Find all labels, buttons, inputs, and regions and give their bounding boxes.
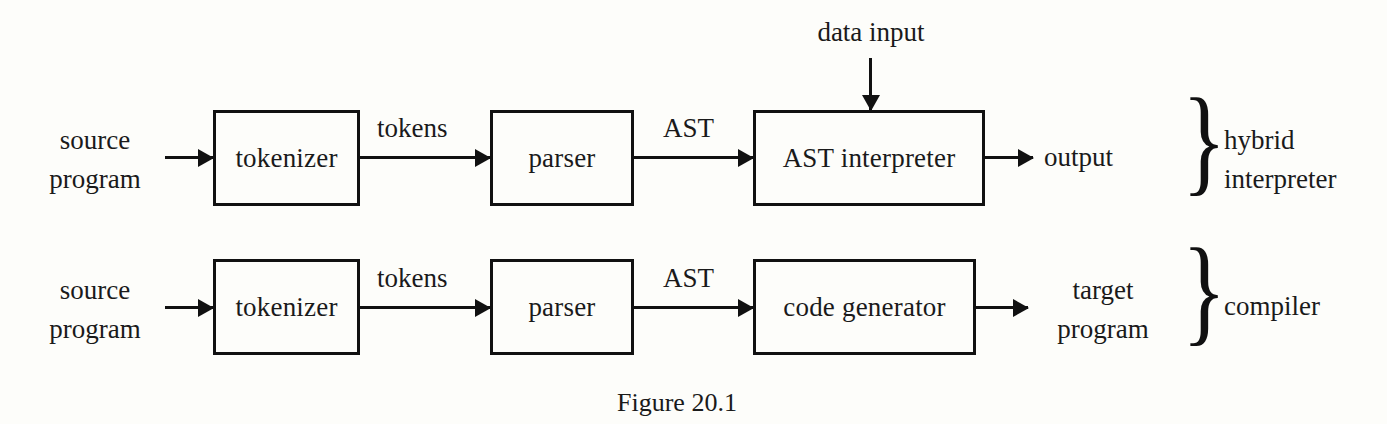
row2-stage-parser-label: parser — [528, 294, 595, 321]
row2-stage-parser[interactable]: parser — [490, 259, 634, 355]
row2-stage-code-generator-label: code generator — [783, 294, 945, 321]
row2-group-label: compiler — [1224, 290, 1320, 322]
row2-arrow-tokenizer-to-parser — [360, 306, 490, 309]
row1-group-label-line2: interpreter — [1224, 160, 1336, 199]
row1-side-input-label: data input — [790, 16, 952, 48]
row1-group-brace: } — [1182, 82, 1226, 200]
row1-input-label-line1: source — [30, 121, 160, 160]
row1-output-label: output — [1044, 141, 1113, 173]
row1-stage-ast-interpreter[interactable]: AST interpreter — [753, 110, 985, 206]
row1-arrow-interpreter-to-output — [985, 156, 1033, 159]
row2-output-label: target program — [1040, 271, 1166, 349]
figure-caption: Figure 20.1 — [617, 388, 737, 418]
row1-group-label: hybrid interpreter — [1224, 121, 1336, 199]
row2-arrow-codegen-to-output — [976, 306, 1028, 309]
row1-stage-tokenizer[interactable]: tokenizer — [213, 110, 360, 206]
row2-stage-tokenizer[interactable]: tokenizer — [213, 259, 360, 355]
row1-input-label: source program — [30, 121, 160, 199]
row1-arrow-tokenizer-to-parser — [360, 156, 490, 159]
row2-arrow-parser-to-codegen — [634, 306, 753, 309]
row2-edge-label-tokens: tokens — [377, 262, 448, 294]
row2-group-brace: } — [1182, 232, 1226, 350]
row2-edge-label-ast: AST — [663, 262, 714, 294]
row2-stage-tokenizer-label: tokenizer — [235, 294, 337, 321]
row1-arrow-data-input — [869, 58, 872, 110]
row1-arrow-parser-to-interpreter — [634, 156, 753, 159]
row2-input-label-line2: program — [30, 310, 160, 349]
row1-input-label-line2: program — [30, 160, 160, 199]
row2-stage-code-generator[interactable]: code generator — [753, 259, 976, 355]
row2-arrow-input-to-tokenizer — [165, 306, 213, 309]
row2-input-label: source program — [30, 271, 160, 349]
row1-stage-ast-interpreter-label: AST interpreter — [783, 145, 956, 172]
row2-output-label-line2: program — [1040, 310, 1166, 349]
row2-input-label-line1: source — [30, 271, 160, 310]
row1-stage-parser-label: parser — [528, 145, 595, 172]
row1-edge-label-ast: AST — [663, 112, 714, 144]
row1-group-label-line1: hybrid — [1224, 121, 1336, 160]
row2-output-label-line1: target — [1040, 271, 1166, 310]
figure-20-1-diagram: source program tokenizer tokens parser A… — [0, 0, 1387, 424]
row1-edge-label-tokens: tokens — [377, 112, 448, 144]
row1-arrow-input-to-tokenizer — [165, 156, 213, 159]
row1-stage-tokenizer-label: tokenizer — [235, 145, 337, 172]
row1-stage-parser[interactable]: parser — [490, 110, 634, 206]
